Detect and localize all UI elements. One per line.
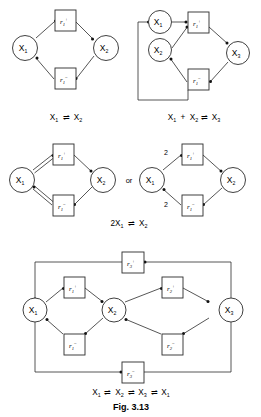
edge-x2-to-r1minus xyxy=(203,188,222,205)
edge-x2-to-r2plus xyxy=(125,288,161,302)
edge-x2-to-r1minus xyxy=(76,56,94,79)
panel-4-diagram: X1 X2 X3 r1+ r1− r2+ r2− r3+ xyxy=(23,252,243,383)
edge-x1-to-r1plus xyxy=(163,155,181,170)
arrow-dot-c xyxy=(226,42,229,45)
arrow-dot-2 xyxy=(101,300,104,303)
edge-r1plus-to-x2 xyxy=(203,155,222,172)
arrow-dot-2 xyxy=(90,170,93,173)
edge-x2-to-r1minus xyxy=(74,187,92,205)
edge-x3-to-r1minus xyxy=(210,62,228,82)
panel-2-caption: X1 + X2 ⇌ X3 xyxy=(168,113,220,123)
panel-3-caption: 2X1 ⇌ X2 xyxy=(110,219,147,229)
arrow-dot-4 xyxy=(163,188,166,191)
edge-x3-to-r2minus xyxy=(183,318,209,334)
edge-r1minus-to-x2 xyxy=(170,58,187,82)
arrow-dot-2 xyxy=(220,170,223,173)
edge-x1-to-r1plus xyxy=(36,22,54,38)
panel-3a-diagram: X1 X2 r1+ r1− xyxy=(10,144,116,216)
edge-x2-to-r1minus xyxy=(85,318,103,334)
arrow-dot-e xyxy=(170,58,173,61)
panel-1-caption: X1 ⇌ X2 xyxy=(50,113,83,123)
edge-x1-to-r1plus-a xyxy=(33,155,52,170)
figure-3-13: X1 X2 r1+ r1− X1 ⇌ X2 xyxy=(0,0,261,417)
edge-x3-to-r3plus xyxy=(144,262,231,300)
panel-2-diagram: X1 X2 X3 r1+ r1− X1 + X2 ⇌ X3 xyxy=(138,11,250,124)
panel-4-caption: X1 ⇌ X2 ⇌ X3 ⇌ X1 xyxy=(92,388,170,398)
edge-r1plus-to-x3 xyxy=(209,27,228,44)
arrow-dot-8 xyxy=(125,318,128,321)
figure-number-label: Fig. 3.13 xyxy=(113,402,149,412)
arrow-dot-6 xyxy=(207,300,210,303)
edge-r2plus-to-x3 xyxy=(183,288,209,302)
edge-weight-out: 2 xyxy=(164,201,168,208)
panel-1-diagram: X1 X2 r1+ r1− X1 ⇌ X2 xyxy=(13,10,119,123)
panel-3b-diagram: X1 X2 r1+ r1− 2 2 xyxy=(140,144,246,216)
arrow-dot-4 xyxy=(46,318,49,321)
edge-r1minus-to-x1-b xyxy=(35,186,54,202)
arrow-dot-a xyxy=(185,21,188,24)
edge-weight-in: 2 xyxy=(164,149,168,156)
edge-x1-to-r1plus-b xyxy=(35,158,54,173)
arrow-dot-4 xyxy=(36,57,39,60)
edge-r1plus-to-x2 xyxy=(76,22,94,40)
arrow-dot-2 xyxy=(91,38,94,41)
edge-r1minus-to-x1 xyxy=(46,319,63,334)
edge-x1-to-r1plus xyxy=(46,288,63,302)
edge-x2-to-r1plus xyxy=(172,26,188,48)
edge-r2minus-to-x2 xyxy=(125,319,161,334)
edge-r1minus-to-x1 xyxy=(36,58,54,79)
edge-r3minus-to-x3 xyxy=(144,318,231,372)
or-separator-label: or xyxy=(126,176,133,185)
edge-r1minus-to-x1-a xyxy=(33,189,52,205)
edge-r1plus-to-x2 xyxy=(74,155,92,172)
edge-r1plus-to-x2 xyxy=(85,288,103,302)
